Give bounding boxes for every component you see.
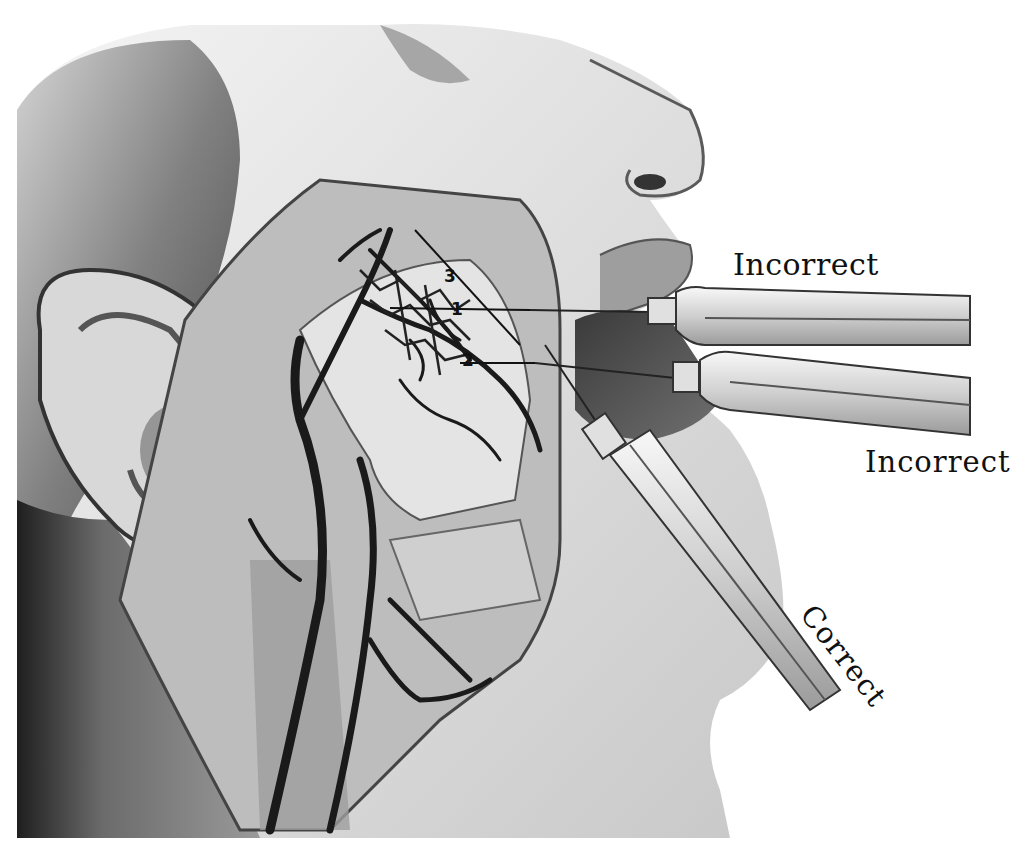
marker-1: 1 — [451, 301, 463, 318]
anatomical-illustration — [0, 0, 1024, 850]
marker-2: 2 — [462, 352, 474, 369]
label-incorrect-lower: Incorrect — [865, 448, 1011, 477]
marker-3: 3 — [444, 268, 456, 285]
label-incorrect-upper: Incorrect — [733, 250, 879, 280]
